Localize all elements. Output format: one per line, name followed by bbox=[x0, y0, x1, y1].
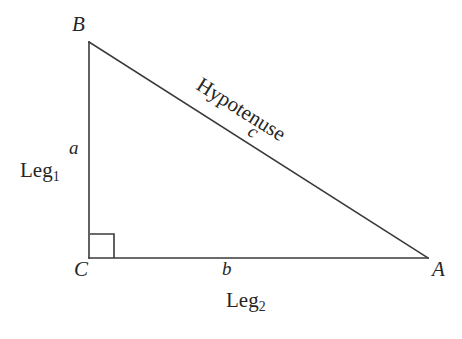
hypotenuse-line-ba bbox=[89, 42, 428, 258]
triangle-outline bbox=[89, 42, 428, 258]
side-length-label-a: a bbox=[69, 138, 79, 157]
leg1-label-subscript: 1 bbox=[53, 169, 60, 184]
leg1-label: Leg1 bbox=[20, 160, 60, 184]
right-triangle-diagram: B C A a b c Leg1 Leg2 Hypotenuse bbox=[0, 0, 462, 339]
right-angle-marker bbox=[90, 234, 114, 258]
leg2-label-subscript: 2 bbox=[259, 299, 266, 314]
vertex-label-c: C bbox=[74, 259, 88, 280]
vertex-label-a: A bbox=[432, 259, 445, 280]
leg2-label-text: Leg bbox=[226, 288, 259, 312]
vertex-label-b: B bbox=[72, 14, 85, 35]
leg2-label: Leg2 bbox=[226, 290, 266, 314]
leg1-label-text: Leg bbox=[20, 158, 53, 182]
side-length-label-b: b bbox=[222, 259, 232, 278]
